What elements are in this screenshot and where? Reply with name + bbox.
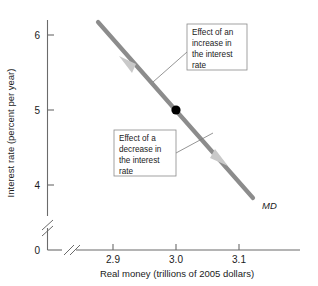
md-curve-label: MD [262,200,277,211]
decrease-annotation-line-3: the interest [119,156,160,165]
increase-annotation-line-3: the interest [192,50,233,59]
x-tick-label-2-9: 2.9 [106,254,120,265]
y-tick-label-6: 6 [34,30,40,41]
increase-annotation-line-4: rate [192,61,207,70]
annotation-increase: Effect of an increase in the interest ra… [187,24,247,70]
y-tick-label-4: 4 [34,180,40,191]
y-axis-title: Interest rate (percent per year) [5,69,16,198]
decrease-annotation-line-4: rate [119,167,134,176]
increase-leader-line [153,52,187,82]
y-tick-label-5: 5 [34,105,40,116]
x-axis-title: Real money (trillions of 2005 dollars) [100,268,254,279]
equilibrium-point [171,105,180,114]
chart-canvas: 6 5 4 0 2.9 3.0 3.1 Real money (trillion… [0,0,318,286]
x-tick-label-3-1: 3.1 [232,254,246,265]
origin-label: 0 [34,245,40,256]
decrease-leader-line [176,133,213,153]
increase-annotation-line-2: increase in [192,39,232,48]
x-break-slash-1 [64,245,74,255]
decrease-annotation-line-1: Effect of a [119,134,156,143]
money-demand-chart: 6 5 4 0 2.9 3.0 3.1 Real money (trillion… [0,0,318,286]
increase-annotation-line-1: Effect of an [192,28,234,37]
annotation-decrease: Effect of a decrease in the interest rat… [114,130,176,176]
x-tick-label-3-0: 3.0 [169,254,183,265]
decrease-annotation-line-2: decrease in [119,145,162,154]
x-ticks-group: 2.9 3.0 3.1 [106,244,246,265]
